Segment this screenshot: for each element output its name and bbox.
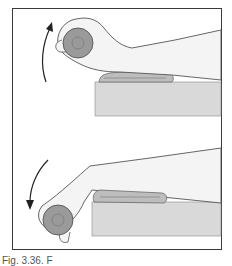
table-top	[95, 82, 221, 116]
dumbbell-top	[63, 28, 93, 58]
dumbbell-bottom	[43, 205, 73, 235]
figure-caption: Fig. 3.36. F	[2, 255, 53, 266]
bottom-panel	[26, 148, 221, 243]
arrow-down-icon	[30, 160, 48, 202]
arrow-up-icon	[43, 28, 50, 82]
table-bottom	[92, 202, 221, 236]
top-panel	[43, 18, 221, 116]
